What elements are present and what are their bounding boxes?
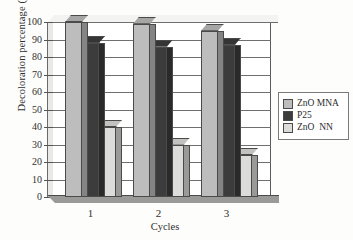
- y-axis-tick: [44, 40, 53, 41]
- bar-group: [133, 22, 184, 197]
- bar-side-face: [116, 127, 122, 197]
- legend-swatch: [283, 111, 293, 121]
- bar-group: [65, 22, 116, 197]
- bar-chart-figure: Decoloration percentage (%) 010203040506…: [0, 0, 353, 240]
- y-axis-tick-label: 80: [32, 51, 42, 62]
- chart-legend: ZnO MNAP25ZnO NN: [278, 92, 349, 140]
- bar-front-face: [65, 22, 82, 197]
- bar-side-face: [82, 22, 88, 197]
- legend-label: P25: [297, 111, 312, 121]
- legend-swatch: [283, 123, 293, 133]
- legend-item[interactable]: ZnO MNA: [283, 99, 344, 109]
- x-axis-tick-label: 2: [156, 207, 162, 219]
- y-axis-tick: [44, 22, 53, 23]
- y-axis-tick-label: 100: [27, 16, 42, 27]
- bar: [133, 24, 150, 197]
- x-axis-tick-label: 1: [88, 207, 94, 219]
- legend-swatch: [283, 99, 293, 109]
- y-axis-tick: [44, 57, 53, 58]
- bar-side-face: [184, 145, 190, 198]
- bar-top-face: [201, 24, 224, 31]
- x-axis-title: Cycles: [40, 221, 290, 232]
- y-axis-tick: [44, 162, 53, 163]
- y-axis-tick-label: 90: [32, 34, 42, 45]
- bar-side-face: [150, 24, 156, 197]
- y-axis-tick-label: 30: [32, 139, 42, 150]
- y-axis-title: Decoloration percentage (%): [16, 0, 27, 133]
- bar: [65, 22, 82, 197]
- x-axis-tick-label: 3: [224, 207, 230, 219]
- y-axis-tick-label: 60: [32, 86, 42, 97]
- y-axis-tick: [44, 127, 53, 128]
- bar-side-face: [218, 31, 224, 197]
- bar-side-face: [235, 45, 241, 197]
- bar-front-face: [133, 24, 150, 197]
- legend-label: ZnO NN: [297, 123, 333, 133]
- y-axis-tick-label: 70: [32, 69, 42, 80]
- plot-area: 0102030405060708090100: [47, 15, 271, 203]
- y-axis-tick-label: 40: [32, 121, 42, 132]
- bar-side-face: [252, 155, 258, 197]
- bar: [201, 31, 218, 197]
- y-axis-tick: [44, 180, 53, 181]
- bar-side-face: [167, 47, 173, 198]
- y-axis-tick: [44, 92, 53, 93]
- y-axis-tick: [44, 75, 53, 76]
- bar-front-face: [201, 31, 218, 197]
- y-axis-tick: [44, 110, 53, 111]
- bar-side-face: [99, 43, 105, 197]
- y-axis-tick-label: 50: [32, 104, 42, 115]
- y-axis-tick-label: 0: [37, 191, 42, 202]
- y-axis-tick-label: 10: [32, 174, 42, 185]
- y-axis-tick-label: 20: [32, 156, 42, 167]
- legend-item[interactable]: P25: [283, 111, 344, 121]
- bar-group: [201, 22, 252, 197]
- legend-item[interactable]: ZnO NN: [283, 123, 344, 133]
- legend-label: ZnO MNA: [297, 99, 339, 109]
- y-axis-tick: [44, 145, 53, 146]
